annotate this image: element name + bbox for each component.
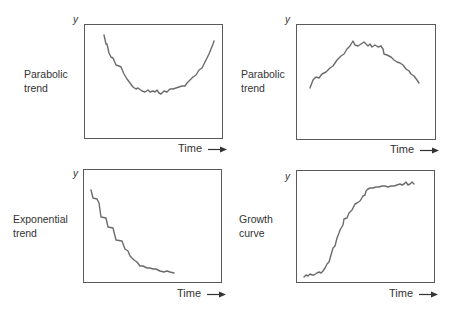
trend-label-line1: Growth bbox=[239, 212, 273, 226]
trend-label-line2: trend bbox=[24, 81, 68, 95]
x-axis-label: Time bbox=[177, 287, 226, 299]
chart-frame bbox=[83, 169, 222, 283]
arrow-right-icon bbox=[207, 291, 226, 298]
trend-label-line1: Exponential bbox=[13, 212, 68, 226]
trend-label-line2: curve bbox=[239, 226, 273, 240]
arrow-right-icon bbox=[208, 146, 227, 153]
chart-frame bbox=[296, 24, 436, 140]
trend-label: Parabolic trend bbox=[241, 67, 285, 95]
arrow-right-icon bbox=[420, 147, 439, 154]
chart-frame bbox=[84, 24, 223, 139]
x-axis-label: Time bbox=[389, 287, 438, 299]
trend-label: Parabolic trend bbox=[24, 67, 68, 95]
arrow-right-icon bbox=[419, 291, 438, 298]
x-axis-label: Time bbox=[178, 142, 227, 154]
y-axis-label: y bbox=[73, 15, 78, 25]
x-axis-text: Time bbox=[177, 287, 201, 299]
trend-label: Growth curve bbox=[239, 212, 273, 240]
trend-label-line1: Parabolic bbox=[24, 67, 68, 81]
y-axis-label: y bbox=[73, 169, 78, 179]
trend-label-line1: Parabolic bbox=[241, 67, 285, 81]
trend-label-line2: trend bbox=[241, 81, 285, 95]
x-axis-text: Time bbox=[390, 143, 414, 155]
chart-frame bbox=[296, 170, 435, 283]
trend-label: Exponential trend bbox=[13, 212, 68, 240]
y-axis-label: y bbox=[285, 172, 290, 182]
trend-label-line2: trend bbox=[13, 226, 68, 240]
y-axis-label: y bbox=[285, 15, 290, 25]
x-axis-text: Time bbox=[389, 287, 413, 299]
x-axis-label: Time bbox=[390, 143, 439, 155]
x-axis-text: Time bbox=[178, 142, 202, 154]
